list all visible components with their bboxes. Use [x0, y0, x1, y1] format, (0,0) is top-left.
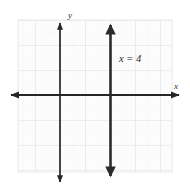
y-axis-label: y — [67, 10, 72, 20]
line-equation-label: x = 4 — [118, 53, 142, 64]
x-axis-label: x — [173, 81, 178, 91]
grid-panel — [18, 20, 172, 172]
coordinate-plane-svg: y x x = 4 — [0, 0, 190, 190]
graph-figure: y x x = 4 — [0, 0, 190, 190]
